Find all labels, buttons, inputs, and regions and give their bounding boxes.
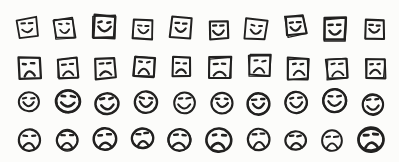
face-stroke — [23, 64, 26, 65]
face-stroke — [107, 22, 110, 23]
face-stroke — [262, 61, 265, 62]
face-stroke — [19, 92, 39, 111]
face-stroke — [18, 128, 41, 151]
face-stroke — [210, 20, 229, 39]
face-stroke — [57, 58, 78, 79]
square-sad-face-icon — [129, 51, 159, 81]
face-stroke — [176, 28, 186, 32]
face-stroke — [98, 21, 101, 22]
face-stroke — [63, 71, 73, 75]
face-stroke — [58, 58, 79, 79]
face-stroke — [93, 14, 115, 38]
circle-happy-face-icon — [169, 88, 200, 119]
face-stroke — [139, 68, 150, 74]
face-stroke — [209, 57, 231, 78]
face-stroke — [137, 134, 141, 135]
circle-happy-face-icon — [129, 85, 163, 119]
face-stroke — [140, 97, 144, 98]
face-stroke — [365, 58, 385, 77]
face-stroke — [368, 106, 380, 111]
face-stroke — [322, 130, 342, 151]
face-stroke — [138, 29, 148, 33]
face-stroke — [139, 61, 142, 62]
circle-sad-face-icon — [353, 122, 389, 158]
face-stroke — [133, 19, 153, 39]
face-stroke — [138, 141, 149, 146]
face-stroke — [102, 105, 115, 110]
face-stroke — [373, 134, 377, 135]
face-stroke — [149, 98, 152, 99]
face-stroke — [253, 103, 264, 108]
face-stroke — [290, 98, 293, 99]
square-happy-face-icon — [51, 14, 80, 43]
face-stroke — [293, 63, 296, 64]
face-stroke — [358, 127, 384, 152]
square-sad-face-icon — [205, 54, 235, 84]
face-stroke — [22, 28, 32, 32]
face-stroke — [134, 56, 155, 77]
circle-sad-face-icon — [317, 125, 347, 155]
face-stroke — [24, 71, 34, 76]
face-stroke — [245, 18, 268, 40]
circle-happy-face-icon — [50, 84, 85, 119]
face-stroke — [247, 129, 269, 151]
face-stroke — [170, 17, 192, 39]
face-stroke — [23, 142, 35, 148]
face-stroke — [329, 102, 341, 107]
square-sad-face-icon — [53, 54, 82, 83]
face-stroke — [23, 102, 33, 106]
circle-sad-face-icon — [201, 122, 237, 158]
circle-sad-face-icon — [127, 123, 158, 154]
face-stroke — [251, 29, 262, 34]
face-stroke — [61, 143, 72, 147]
face-stroke — [176, 69, 186, 73]
face-stroke — [253, 68, 264, 73]
circle-happy-face-icon — [358, 89, 389, 120]
face-stroke — [296, 22, 300, 23]
face-stroke — [32, 135, 35, 136]
face-stroke — [297, 136, 301, 137]
face-stroke — [254, 142, 265, 147]
face-stroke — [67, 23, 69, 24]
square-happy-face-icon — [167, 13, 196, 42]
square-sad-face-icon — [322, 53, 353, 84]
circle-sad-face-icon — [52, 125, 83, 156]
circle-happy-face-icon — [280, 86, 312, 118]
square-happy-face-icon — [205, 16, 233, 44]
face-stroke — [61, 102, 74, 106]
face-stroke — [211, 93, 233, 114]
face-stroke — [95, 93, 119, 115]
face-stroke — [291, 102, 303, 108]
face-stroke — [252, 24, 255, 25]
face-stroke — [174, 135, 178, 136]
face-stroke — [101, 98, 105, 99]
face-stroke — [332, 71, 343, 76]
face-stroke — [334, 136, 338, 137]
circle-sad-face-icon — [280, 126, 311, 157]
face-stroke — [338, 96, 342, 97]
face-stroke — [133, 19, 154, 40]
face-stroke — [370, 70, 380, 74]
face-stroke — [339, 63, 343, 64]
face-stroke — [366, 59, 385, 78]
circle-happy-face-icon — [14, 87, 44, 117]
face-stroke — [224, 99, 227, 100]
circle-happy-face-icon — [243, 87, 275, 119]
circle-sad-face-icon — [13, 123, 46, 156]
face-stroke — [285, 131, 307, 151]
face-stroke — [365, 142, 377, 147]
face-stroke — [110, 98, 113, 99]
face-stroke — [174, 93, 195, 114]
face-stroke — [327, 137, 331, 138]
square-happy-face-icon — [241, 14, 272, 45]
face-stroke — [300, 63, 303, 64]
circle-sad-face-icon — [163, 124, 197, 158]
face-stroke — [147, 62, 150, 63]
face-stroke — [288, 58, 309, 79]
face-stroke — [214, 72, 226, 76]
face-row-square-sad — [0, 48, 399, 86]
face-stroke — [131, 128, 154, 149]
face-stroke — [56, 90, 79, 113]
face-stroke — [99, 142, 112, 147]
face-stroke — [327, 143, 337, 147]
